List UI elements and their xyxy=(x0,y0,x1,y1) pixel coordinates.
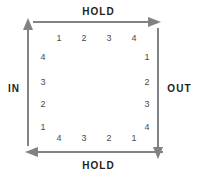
slot-bottom-1: 4 xyxy=(54,133,64,143)
slot-right-4: 4 xyxy=(142,122,152,132)
out-label: OUT xyxy=(165,83,194,94)
slot-right-3: 3 xyxy=(142,99,152,109)
slot-left-1: 4 xyxy=(38,52,48,62)
slot-right-1: 1 xyxy=(142,52,152,62)
slot-top-1: 1 xyxy=(54,33,64,43)
hold-flow-diagram: HOLD HOLD IN OUT 1 2 3 4 4 3 2 1 1 2 3 4… xyxy=(0,0,197,178)
slot-bottom-4: 1 xyxy=(129,133,139,143)
slot-top-2: 2 xyxy=(79,33,89,43)
arrow-up-icon xyxy=(23,18,33,30)
hold-top-label: HOLD xyxy=(0,6,197,17)
slot-bottom-3: 2 xyxy=(104,133,114,143)
arrow-right-icon xyxy=(148,17,161,27)
arrow-left-icon xyxy=(25,147,38,157)
slot-top-3: 3 xyxy=(104,33,114,43)
slot-right-2: 2 xyxy=(142,77,152,87)
hold-bottom-label: HOLD xyxy=(0,160,197,171)
slot-left-4: 1 xyxy=(38,122,48,132)
slot-left-2: 3 xyxy=(38,77,48,87)
slot-bottom-2: 3 xyxy=(79,133,89,143)
slot-left-3: 2 xyxy=(38,99,48,109)
in-label: IN xyxy=(3,83,25,94)
slot-top-4: 4 xyxy=(129,33,139,43)
